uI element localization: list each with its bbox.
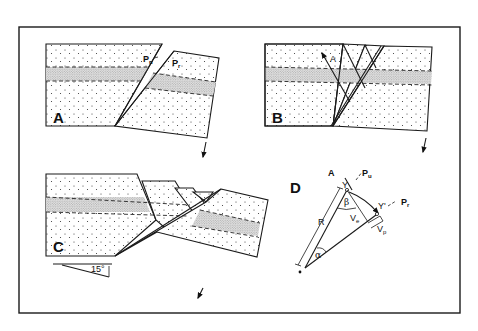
svg-text:A: A xyxy=(328,168,335,178)
panel-d: D R α A Pu Y β Y' Pr Ve xyxy=(290,168,410,273)
svg-text:Ve: Ve xyxy=(350,213,360,224)
svg-text:Pr: Pr xyxy=(401,197,410,208)
panel-a: A Pu Pr xyxy=(46,44,219,157)
svg-text:Pu: Pu xyxy=(362,168,372,179)
svg-text:Vp: Vp xyxy=(377,224,387,235)
fault-rotation-figure: A Pu Pr A B C xyxy=(0,0,478,331)
panel-label-d: D xyxy=(290,179,301,196)
panel-c: C 15° xyxy=(46,174,268,298)
panel-b: A B xyxy=(265,44,432,152)
svg-text:A: A xyxy=(330,54,336,64)
rotation-arrow xyxy=(203,142,206,157)
svg-text:β: β xyxy=(344,197,349,207)
svg-text:Y: Y xyxy=(342,180,348,190)
panel-label-b: B xyxy=(272,109,283,126)
svg-text:Y': Y' xyxy=(378,201,386,211)
svg-text:α: α xyxy=(315,250,321,260)
angle-label: 15° xyxy=(91,264,105,274)
panel-label-c: C xyxy=(53,238,64,255)
svg-text:R: R xyxy=(318,217,325,227)
rotation-arrow xyxy=(198,288,203,298)
rotation-arrow xyxy=(423,138,426,152)
panel-label-a: A xyxy=(53,109,64,126)
